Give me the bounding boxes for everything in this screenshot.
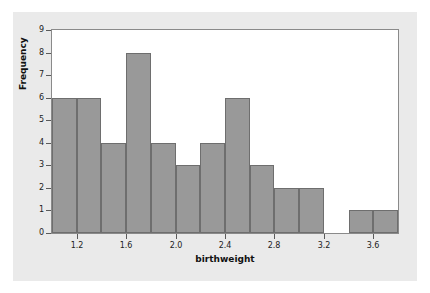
y-axis-title: Frequency [18, 37, 28, 90]
y-axis-tick-label: 1 [30, 206, 44, 214]
y-axis-tick-label: 2 [30, 184, 44, 192]
plot-area [52, 30, 398, 233]
y-axis-tick-label: 4 [30, 139, 44, 147]
x-axis-tick-label: 1.6 [111, 241, 141, 250]
x-axis-tick [225, 234, 226, 239]
y-axis-tick-label: 6 [30, 94, 44, 102]
y-axis-tick-label: 0 [30, 229, 44, 237]
x-axis-tick-label: 2.8 [259, 241, 289, 250]
histogram-bar [373, 210, 398, 233]
x-axis-tick-label: 1.2 [62, 241, 92, 250]
x-axis-tick [324, 234, 325, 239]
histogram-bar [77, 98, 102, 233]
plot-frame [51, 29, 399, 234]
y-axis-tick-label: 8 [30, 49, 44, 57]
histogram-bar [52, 98, 77, 233]
x-axis-tick [126, 234, 127, 239]
y-axis-tick-label: 5 [30, 116, 44, 124]
histogram-bar [151, 143, 176, 233]
x-axis-tick [77, 234, 78, 239]
histogram-bar [349, 210, 374, 233]
x-axis-title: birthweight [51, 254, 399, 264]
x-axis-tick-label: 2.4 [210, 241, 240, 250]
histogram-bar [101, 143, 126, 233]
x-axis-tick-label: 3.2 [309, 241, 339, 250]
histogram-bar [176, 165, 201, 233]
y-axis-tick-label: 7 [30, 71, 44, 79]
x-axis-tick [274, 234, 275, 239]
histogram-bar [299, 188, 324, 233]
histogram-figure: Frequency 0123456789 1.21.62.02.42.83.23… [0, 0, 430, 293]
histogram-bar [126, 53, 151, 233]
x-axis-tick [373, 234, 374, 239]
histogram-bar [250, 165, 275, 233]
y-axis-tick-label: 9 [30, 26, 44, 34]
y-axis-tick-label: 3 [30, 161, 44, 169]
x-axis-tick-label: 3.6 [358, 241, 388, 250]
x-axis-tick [176, 234, 177, 239]
histogram-bar [274, 188, 299, 233]
histogram-bar [225, 98, 250, 233]
histogram-bar [200, 143, 225, 233]
x-axis-tick-label: 2.0 [161, 241, 191, 250]
